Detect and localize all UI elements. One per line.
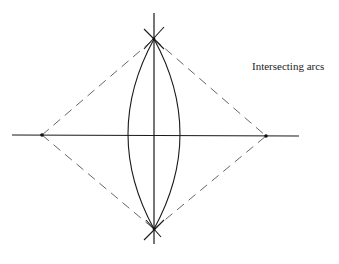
point-right: [264, 134, 268, 138]
point-bottom: [153, 228, 156, 231]
point-top: [153, 38, 156, 41]
intersecting-arcs-label: Intersecting arcs: [252, 60, 324, 72]
construction-figure: [0, 0, 339, 264]
horizontal-line: [12, 135, 299, 136]
diagram-canvas: Intersecting arcs: [0, 0, 339, 264]
point-left: [40, 133, 44, 137]
